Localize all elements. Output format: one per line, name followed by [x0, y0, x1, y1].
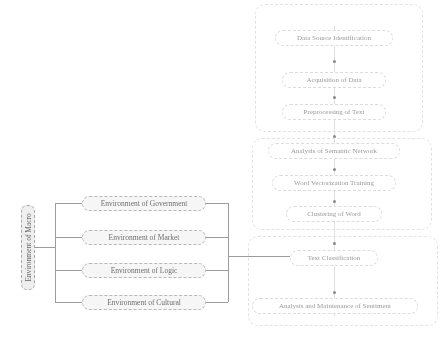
arrow-icon	[333, 200, 336, 203]
macro-connector	[35, 247, 55, 248]
left-bus	[55, 203, 56, 302]
flow-connector	[334, 26, 335, 316]
branch-market	[55, 237, 82, 238]
step-clustering-of-word: Clustering of Word	[286, 206, 382, 222]
step-preprocessing-of-text: Preprocessing of Text	[282, 104, 386, 120]
environment-government-box: Environment of Government	[82, 196, 206, 211]
branch-government	[55, 203, 82, 204]
step-acquisition-of-data: Acquisition of Data	[282, 72, 386, 88]
arrow-icon	[333, 135, 336, 138]
step-analysis-and-maintenance-of-sentiment: Analysis and Maintenance of Sentiment	[252, 298, 418, 314]
to-text-classification	[228, 256, 290, 257]
arrow-icon	[333, 242, 336, 245]
environment-logic-box: Environment of Logic	[82, 263, 206, 278]
step-word-vectorization: Word Vectorization Training	[272, 175, 396, 191]
step-text-classification: Text Classification	[290, 250, 378, 266]
arrow-icon	[333, 96, 336, 99]
environment-market-box: Environment of Market	[82, 230, 206, 245]
arrow-icon	[333, 60, 336, 63]
branch-out-market	[206, 237, 228, 238]
branch-out-government	[206, 203, 228, 204]
branch-cultural	[55, 302, 82, 303]
step-data-source-identification: Data Source Identification	[275, 30, 393, 46]
right-bus	[228, 203, 229, 302]
branch-out-cultural	[206, 302, 228, 303]
arrow-icon	[333, 291, 336, 294]
branch-logic	[55, 270, 82, 271]
environment-cultural-box: Environment of Cultural	[82, 295, 206, 310]
arrow-icon	[333, 168, 336, 171]
macro-environment-box: Environment of Macro	[21, 205, 35, 290]
branch-out-logic	[206, 270, 228, 271]
diagram: Data Source Identification Acquisition o…	[0, 0, 448, 340]
step-analysis-of-semantic-network: Analysis of Semantic Network	[268, 143, 400, 159]
